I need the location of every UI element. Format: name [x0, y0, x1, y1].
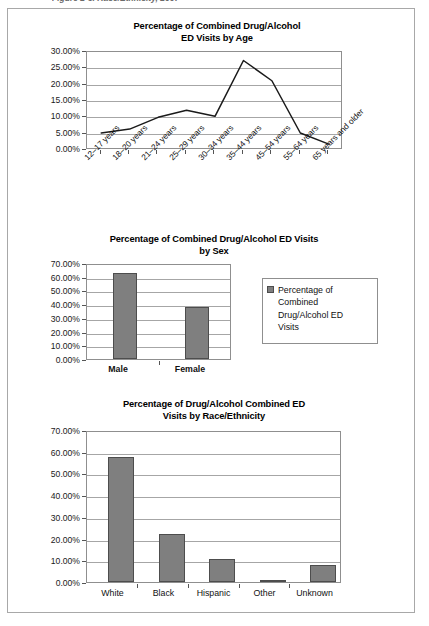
- race-plot-wrap: 70.00% 60.00% 50.00% 40.00% 30.00% 20.00…: [8, 428, 414, 608]
- bar-black: [159, 534, 185, 582]
- bar-unknown: [310, 565, 336, 582]
- age-ytick-3: 15.00%: [22, 95, 80, 105]
- sex-xlabel-female: Female: [160, 364, 220, 374]
- sex-ytick-4: 30.00%: [22, 314, 80, 324]
- bar-white: [108, 457, 134, 582]
- age-line-chart: Percentage of Combined Drug/Alcohol ED V…: [8, 21, 414, 226]
- race-xlabel-unknown: Unknown: [289, 588, 340, 598]
- race-gridline-60: [87, 454, 340, 455]
- legend-label: Percentage of Combined Drug/Alcohol ED V…: [278, 284, 343, 334]
- race-chart-title-line2: Visits by Race/Ethnicity: [14, 411, 414, 423]
- figure-page: Figure 2-3. Race/Ethnicity, 2007 Percent…: [0, 0, 429, 626]
- age-ytick-0: 30.00%: [22, 46, 80, 56]
- race-ytick-mark-7: [82, 583, 86, 584]
- sex-xlabel-male: Male: [88, 364, 148, 374]
- sex-chart-title-line2: by Sex: [14, 246, 414, 258]
- race-ytick-1: 60.00%: [22, 448, 80, 458]
- age-plot-wrap: 30.00% 25.00% 20.00% 15.00% 10.00% 5.00%…: [8, 49, 414, 224]
- race-ytick-6: 10.00%: [22, 556, 80, 566]
- legend-swatch-icon: [267, 286, 274, 293]
- legend-label-line4: Visits: [278, 321, 343, 333]
- bar-male: [113, 273, 137, 359]
- bar-other: [260, 580, 286, 582]
- race-ytick-5: 20.00%: [22, 535, 80, 545]
- sex-ytick-7: 0.00%: [22, 355, 80, 365]
- age-ytick-6: 0.00%: [22, 144, 80, 154]
- sex-ytick-2: 50.00%: [22, 286, 80, 296]
- sex-gridline-60: [87, 279, 230, 280]
- race-ytick-2: 50.00%: [22, 469, 80, 479]
- sex-ytick-6: 10.00%: [22, 341, 80, 351]
- race-ytick-4: 30.00%: [22, 513, 80, 523]
- race-chart-title: Percentage of Drug/Alcohol Combined ED V…: [8, 399, 414, 422]
- age-ytick-2: 20.00%: [22, 79, 80, 89]
- sex-ytick-3: 40.00%: [22, 300, 80, 310]
- age-ytick-1: 25.00%: [22, 62, 80, 72]
- age-chart-title-line1: Percentage of Combined Drug/Alcohol: [20, 21, 414, 33]
- race-ytick-0: 70.00%: [22, 426, 80, 436]
- legend-label-line2: Combined: [278, 296, 343, 308]
- legend-row: Percentage of Combined Drug/Alcohol ED V…: [267, 284, 372, 334]
- race-xlabel-black: Black: [138, 588, 189, 598]
- race-ethnicity-bar-chart: Percentage of Drug/Alcohol Combined ED V…: [8, 399, 414, 611]
- sex-chart-legend: Percentage of Combined Drug/Alcohol ED V…: [262, 278, 378, 344]
- age-ytick-4: 10.00%: [22, 111, 80, 121]
- race-xlabel-white: White: [87, 588, 138, 598]
- sex-ytick-0: 70.00%: [22, 259, 80, 269]
- sex-ytick-mark-7: [82, 360, 86, 361]
- age-chart-title-line2: ED Visits by Age: [20, 33, 414, 45]
- sex-plot-wrap: 70.00% 60.00% 50.00% 40.00% 30.00% 20.00…: [8, 262, 414, 392]
- race-plot-area: [86, 431, 341, 583]
- bar-hispanic: [209, 559, 235, 582]
- bar-female: [185, 307, 209, 359]
- sex-bar-chart: Percentage of Combined Drug/Alcohol ED V…: [8, 234, 414, 394]
- race-chart-title-line1: Percentage of Drug/Alcohol Combined ED: [14, 399, 414, 411]
- sex-chart-title-line1: Percentage of Combined Drug/Alcohol ED V…: [14, 234, 414, 246]
- race-xlabel-other: Other: [239, 588, 290, 598]
- age-chart-title: Percentage of Combined Drug/Alcohol ED V…: [8, 21, 414, 44]
- sex-gridline-50: [87, 292, 230, 293]
- race-ytick-7: 0.00%: [22, 578, 80, 588]
- race-ytick-3: 40.00%: [22, 491, 80, 501]
- figure-frame: Percentage of Combined Drug/Alcohol ED V…: [7, 8, 415, 613]
- sex-plot-area: [86, 264, 231, 360]
- race-xlabel-hispanic: Hispanic: [188, 588, 239, 598]
- sex-ytick-1: 60.00%: [22, 273, 80, 283]
- sex-chart-title: Percentage of Combined Drug/Alcohol ED V…: [8, 234, 414, 257]
- legend-label-line1: Percentage of: [278, 284, 343, 296]
- top-caption: Figure 2-3. Race/Ethnicity, 2007: [52, 0, 352, 3]
- sex-ytick-5: 20.00%: [22, 328, 80, 338]
- age-ytick-5: 5.00%: [22, 128, 80, 138]
- legend-label-line3: Drug/Alcohol ED: [278, 309, 343, 321]
